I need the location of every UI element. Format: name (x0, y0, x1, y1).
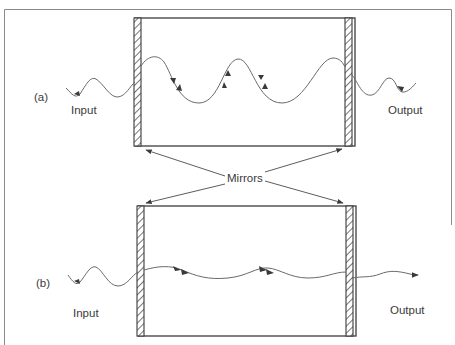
panel-a: (a) Input Output (34, 18, 423, 146)
input-arrow-icon-a (74, 91, 80, 96)
panel-label-b: (b) (36, 277, 50, 289)
wave-arrow-icon (262, 83, 268, 89)
output-wave-a (352, 75, 416, 95)
input-label-b: Input (73, 307, 99, 319)
cavity-box-b (138, 206, 356, 336)
mirror-left-b (137, 206, 144, 336)
wave-arrow-icon (258, 75, 264, 80)
input-label-a: Input (71, 104, 97, 116)
panel-b: (b) Input Output (36, 206, 425, 336)
panel-label-a: (a) (34, 91, 48, 103)
cavity-box-a (135, 18, 355, 146)
fabry-perot-diagram: (a) Input Output Mirrors (b) Input Outpu… (0, 0, 455, 345)
wave-arrow-icon (173, 266, 181, 271)
mirrors-label: Mirrors (227, 172, 263, 184)
wave-arrow-icon (222, 82, 227, 88)
output-label-a: Output (388, 104, 423, 116)
mirrors-callout: Mirrors (146, 149, 343, 203)
wave-arrow-icon (259, 266, 267, 272)
output-wave-b (353, 271, 418, 278)
mirror-left-a (134, 18, 141, 146)
mirror-right-b (346, 206, 353, 336)
mirror-right-a (345, 18, 352, 146)
wave-arrow-icon (266, 269, 274, 275)
output-label-b: Output (390, 304, 425, 316)
